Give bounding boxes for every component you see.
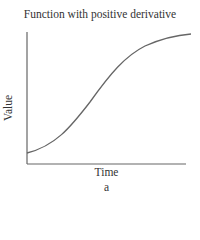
y-axis-label-container: Value	[3, 90, 27, 130]
function-curve	[27, 34, 191, 153]
y-axis-label: Value	[2, 95, 14, 121]
figure-caption: a	[27, 181, 186, 193]
x-axis-label: Time	[27, 166, 186, 178]
